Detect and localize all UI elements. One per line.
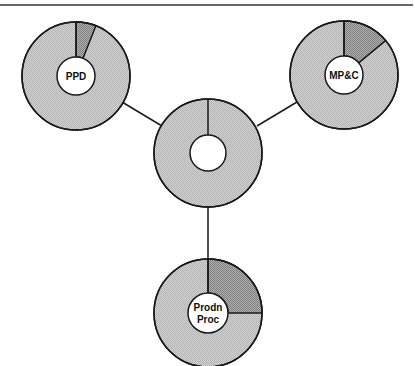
node-prodn-proc: ProdnProc — [154, 259, 262, 366]
node-label: MP&C — [329, 70, 358, 81]
node-ppd: PPD — [22, 22, 130, 130]
connector-hub-to-ppd — [122, 102, 162, 126]
donut-hole — [190, 135, 226, 171]
donut-hole — [188, 293, 228, 333]
connector-hub-to-mpc — [257, 102, 297, 126]
node-label: PPD — [66, 71, 87, 82]
node-label: Prodn — [194, 302, 223, 313]
node-mpc: MP&C — [290, 21, 398, 129]
node-label: Proc — [197, 314, 220, 325]
donut-nodes: PPDMP&CProdnProc — [22, 21, 398, 366]
node-hub — [154, 99, 262, 207]
donut-diagram: PPDMP&CProdnProc — [0, 0, 415, 366]
